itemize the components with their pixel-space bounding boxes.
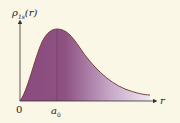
a0-tick-label: a0 — [51, 106, 61, 118]
y-axis-label: ρ1s(r) — [12, 8, 37, 20]
radial-probability-chart: ρ1s(r) 0 a0 r — [0, 0, 180, 123]
origin-label: 0 — [16, 105, 22, 115]
x-axis-label: r — [160, 96, 165, 106]
density-area — [20, 29, 150, 101]
